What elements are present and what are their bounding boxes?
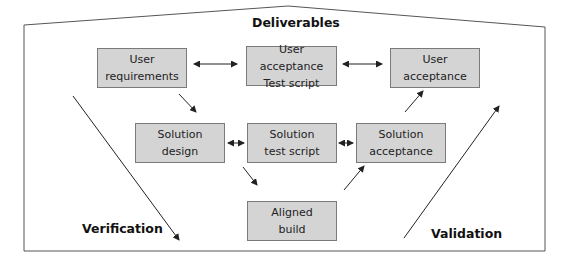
box-user-requirements: User requirements	[97, 48, 187, 88]
box-line: test script	[264, 143, 319, 160]
verification-label: Verification	[82, 221, 163, 236]
box-solution-design: Solution design	[135, 123, 225, 163]
box-line: acceptance	[369, 143, 432, 160]
box-line: requirements	[105, 68, 179, 85]
box-line: User acceptance	[247, 41, 336, 75]
box-aligned-build: Aligned build	[247, 201, 337, 241]
diagram-title: Deliverables	[252, 15, 340, 30]
box-line: User	[129, 51, 154, 68]
validation-label: Validation	[431, 226, 502, 241]
verification-arrow	[73, 96, 179, 240]
arrow-ureq-sdes	[179, 94, 196, 112]
box-line: Solution	[379, 126, 424, 143]
box-user-acceptance-test-script: User acceptance Test script	[246, 46, 337, 86]
box-solution-test-script: Solution test script	[247, 123, 337, 163]
box-line: build	[278, 221, 305, 238]
box-line: acceptance	[403, 68, 466, 85]
box-line: Solution	[158, 126, 203, 143]
arrow-sts-build	[243, 167, 257, 185]
box-line: User	[422, 51, 447, 68]
box-user-acceptance: User acceptance	[390, 48, 480, 88]
box-line: Aligned	[271, 204, 312, 221]
box-line: Test script	[264, 75, 320, 92]
box-solution-acceptance: Solution acceptance	[356, 123, 446, 163]
box-line: Solution	[270, 126, 315, 143]
arrow-sacc-uacc	[405, 91, 423, 112]
arrow-build-sacc	[344, 166, 364, 190]
box-line: design	[162, 143, 199, 160]
